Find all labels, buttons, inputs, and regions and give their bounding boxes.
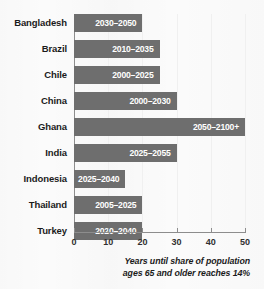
- x-axis: 01020304050: [74, 232, 245, 254]
- bar-value-label: 2025–2055: [129, 148, 176, 158]
- bar[interactable]: 2010–2035: [74, 40, 160, 58]
- bar-category-label: Thailand: [29, 196, 67, 214]
- bar-track: 2025–2040: [74, 170, 125, 188]
- x-tick-10: [108, 228, 109, 233]
- bar-row[interactable]: Indonesia2025–2040: [0, 170, 264, 196]
- bar-category-label: Bangladesh: [14, 14, 67, 32]
- bar-track: 2010–2035: [74, 40, 160, 58]
- bar-value-label: 2030–2050: [95, 18, 142, 28]
- bar-value-label: 2010–2035: [112, 44, 159, 54]
- bar-category-label: India: [45, 144, 67, 162]
- bar-category-label: Turkey: [37, 222, 67, 240]
- bar-row[interactable]: India2025–2055: [0, 144, 264, 170]
- bar-category-label: Chile: [44, 66, 67, 84]
- bar-row[interactable]: China2000–2030: [0, 92, 264, 118]
- x-tick-label: 20: [137, 237, 147, 247]
- x-tick-30: [177, 228, 178, 233]
- bar-chart-figure: Bangladesh2030–2050Brazil2010–2035Chile2…: [0, 0, 264, 289]
- bar-track: 2025–2055: [74, 144, 177, 162]
- bar-value-label: 2000–2030: [129, 96, 176, 106]
- bar-row[interactable]: Brazil2010–2035: [0, 40, 264, 66]
- bar-category-label: Indonesia: [24, 170, 67, 188]
- bar-row[interactable]: Ghana2050–2100+: [0, 118, 264, 144]
- chart-caption: Years until share of population ages 65 …: [90, 255, 250, 279]
- bar-value-label: 2050–2100+: [193, 122, 245, 132]
- bar[interactable]: 2000–2030: [74, 92, 177, 110]
- bar[interactable]: 2025–2055: [74, 144, 177, 162]
- x-tick-label: 0: [71, 237, 76, 247]
- bar-track: 2030–2050: [74, 14, 142, 32]
- bar-category-label: Ghana: [38, 118, 67, 136]
- x-tick-label: 30: [172, 237, 182, 247]
- bar-value-label: 2025–2040: [78, 174, 125, 184]
- bar-category-label: China: [41, 92, 67, 110]
- x-tick-label: 50: [240, 237, 250, 247]
- bar[interactable]: 2050–2100+: [74, 118, 245, 136]
- x-tick-20: [142, 228, 143, 233]
- bar-track: 2000–2025: [74, 66, 160, 84]
- bar-category-label: Brazil: [42, 40, 67, 58]
- bar-rows: Bangladesh2030–2050Brazil2010–2035Chile2…: [0, 14, 264, 248]
- x-tick-50: [245, 228, 246, 233]
- bar[interactable]: 2005–2025: [74, 196, 142, 214]
- bar-value-label: 2005–2025: [95, 200, 142, 210]
- bar-row[interactable]: Chile2000–2025: [0, 66, 264, 92]
- bar-row[interactable]: Thailand2005–2025: [0, 196, 264, 222]
- bar[interactable]: 2025–2040: [74, 170, 125, 188]
- x-axis-line: [74, 232, 245, 233]
- x-tick-40: [211, 228, 212, 233]
- bar-track: 2000–2030: [74, 92, 177, 110]
- bar[interactable]: 2030–2050: [74, 14, 142, 32]
- bar-track: 2050–2100+: [74, 118, 245, 136]
- bar-value-label: 2000–2025: [112, 70, 159, 80]
- bar-track: 2005–2025: [74, 196, 142, 214]
- x-tick-label: 10: [103, 237, 113, 247]
- caption-line-1: Years until share of population: [90, 255, 250, 267]
- bar-row[interactable]: Bangladesh2030–2050: [0, 14, 264, 40]
- x-tick-0: [74, 228, 75, 233]
- caption-line-2: ages 65 and older reaches 14%: [90, 267, 250, 279]
- x-tick-label: 40: [206, 237, 216, 247]
- bar[interactable]: 2000–2025: [74, 66, 160, 84]
